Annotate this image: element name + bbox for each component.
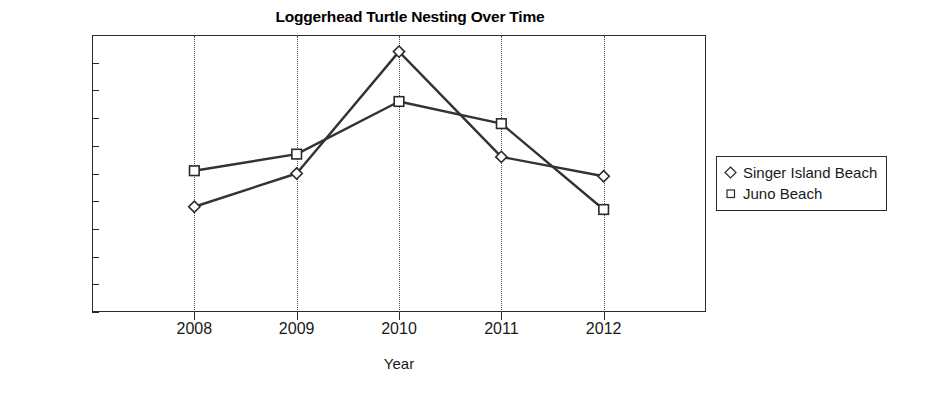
data-point-diamond-marker [598,171,609,182]
series-juno-beach [190,97,609,215]
legend-label: Juno Beach [743,185,822,202]
series-line [194,101,603,209]
chart-figure: Loggerhead Turtle Nesting Over Time Numb… [0,0,936,399]
data-point-square-marker [292,149,302,159]
series-line [194,52,603,207]
legend-item-singer-island-beach: Singer Island Beach [724,162,877,183]
data-point-square-marker [497,119,507,129]
square-marker-icon [724,187,737,200]
legend-label: Singer Island Beach [743,164,877,181]
data-point-square-marker [190,166,200,176]
legend-item-juno-beach: Juno Beach [724,183,877,204]
data-point-square-marker [394,97,404,107]
chart-legend: Singer Island Beach Juno Beach [716,156,887,211]
diamond-marker-icon [724,166,737,179]
data-point-diamond-marker [189,201,200,212]
series-singer-island-beach [189,46,610,212]
data-point-square-marker [599,205,609,215]
